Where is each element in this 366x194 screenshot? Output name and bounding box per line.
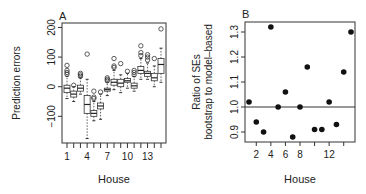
box (64, 85, 70, 92)
box-house-11 (131, 68, 137, 91)
box-house-8 (111, 56, 117, 89)
figure: A−10001002001471013HousePrediction error… (0, 0, 366, 194)
data-point (246, 99, 252, 105)
box-house-15 (158, 27, 164, 83)
box-house-1 (64, 63, 70, 98)
outlier (139, 44, 143, 48)
data-point (290, 134, 296, 140)
x-tick-label: 12 (324, 149, 336, 160)
outlier (65, 63, 69, 67)
data-point (334, 122, 340, 128)
data-point (348, 29, 354, 35)
box-house-13 (145, 53, 151, 80)
outlier (139, 50, 143, 54)
data-point (304, 64, 310, 70)
y-tick-label: 200 (46, 19, 57, 36)
x-tick-label: 8 (297, 149, 303, 160)
y-tick-label: −100 (46, 105, 57, 128)
y-axis-label-line2: bootstrap to model–based (203, 24, 214, 140)
box-house-6 (98, 90, 104, 119)
data-point (283, 89, 289, 95)
box-house-3 (77, 71, 83, 94)
y-tick-label: 0 (46, 83, 57, 89)
x-tick-label: 4 (268, 149, 274, 160)
panel-a-boxplot: A−10001002001471013HousePrediction error… (11, 10, 166, 185)
y-axis-label-line1: Ratio of SEs (191, 54, 202, 110)
data-point (341, 69, 347, 75)
x-tick-label: 2 (254, 149, 260, 160)
data-point (312, 127, 318, 133)
y-tick-label: 100 (46, 48, 57, 65)
box-house-12 (138, 44, 144, 80)
data-point (326, 99, 332, 105)
outlier (125, 69, 129, 73)
x-tick-label: 10 (122, 151, 134, 162)
outlier (152, 56, 156, 60)
box (158, 59, 164, 74)
y-tick-label: 1.3 (229, 25, 240, 39)
outlier (112, 56, 116, 60)
data-point (253, 119, 259, 125)
data-point (319, 127, 325, 133)
box-house-10 (124, 69, 130, 88)
data-point (297, 104, 303, 110)
box-house-9 (118, 61, 124, 92)
outlier (85, 52, 89, 56)
y-axis-label: Prediction errors (11, 46, 22, 119)
panel-label: A (59, 10, 67, 22)
x-tick-label: 6 (283, 149, 289, 160)
box-house-4 (84, 52, 90, 139)
data-point (275, 104, 281, 110)
box (151, 73, 157, 80)
outlier (119, 61, 123, 65)
x-tick-label: 7 (105, 151, 111, 162)
box-house-14 (151, 56, 157, 86)
y-tick-label: 0.9 (229, 125, 240, 139)
y-tick-label: 1.2 (229, 50, 240, 64)
panel-label: B (242, 8, 249, 20)
box-house-2 (71, 83, 77, 101)
data-point (268, 24, 274, 30)
outlier (92, 89, 96, 93)
x-tick-label: 13 (142, 151, 154, 162)
box-house-5 (91, 89, 97, 121)
box-house-7 (104, 76, 110, 96)
x-tick-label: 1 (64, 151, 70, 162)
y-tick-label: 1.1 (229, 75, 240, 89)
data-point (261, 129, 267, 135)
x-axis-label: House (98, 173, 130, 185)
outlier (159, 27, 163, 31)
y-tick-label: 1.0 (229, 100, 240, 114)
outlier (98, 90, 102, 94)
x-tick-label: 4 (84, 151, 90, 162)
panel-b-scatter: B0.91.01.11.21.3246812HouseRatio of SEsb… (191, 8, 355, 185)
x-axis-label: House (284, 173, 316, 185)
